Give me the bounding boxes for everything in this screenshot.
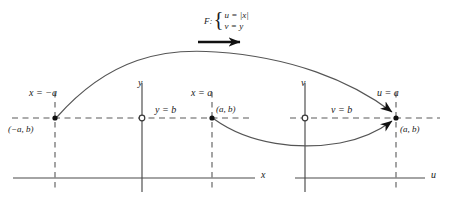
label-y-equals-b: y = b: [155, 105, 176, 115]
function-definition-label: F: { u = |x| v = y: [204, 10, 249, 31]
label-v-equals-b: v = b: [331, 105, 352, 115]
brace-glyph: {: [214, 9, 224, 30]
label-u-axis: u: [431, 170, 436, 180]
point-a-b-source: [209, 115, 214, 120]
label-x-equals-a: x = a: [191, 88, 212, 98]
label-x-axis: x: [261, 170, 265, 180]
label-point-a-b-target: (a, b): [400, 125, 420, 134]
label-y-axis: y: [138, 78, 142, 88]
point-a-b-target: [393, 115, 398, 120]
function-equation-v: v = y: [225, 21, 249, 32]
source-plane-axes: [13, 83, 255, 192]
mapping-figure: F: { u = |x| v = y x = −a (−a, b) y y = …: [0, 0, 450, 200]
function-name: F:: [204, 16, 213, 26]
label-point-a-b-source: (a, b): [216, 105, 236, 114]
label-point-minus-a-b: (−a, b): [8, 125, 34, 134]
lower-mapping-curve: [214, 119, 392, 146]
label-x-equals-minus-a: x = −a: [29, 88, 57, 98]
function-equation-u: u = |x|: [225, 10, 249, 21]
origin-source-plane: [139, 115, 145, 121]
target-plane-guides: [290, 92, 440, 190]
label-v-axis: v: [301, 78, 305, 88]
label-u-equals-a: u = a: [377, 88, 399, 98]
point-minus-a-b: [52, 115, 57, 120]
origin-target-plane: [302, 115, 308, 121]
